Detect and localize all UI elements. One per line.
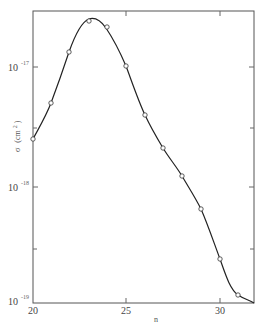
data-point	[143, 113, 147, 117]
data-point	[124, 64, 128, 68]
x-ticks	[126, 11, 220, 303]
data-point	[87, 19, 91, 23]
x-tick-label-30: 30	[215, 305, 225, 316]
x-tick-label-20: 20	[28, 305, 38, 316]
data-point	[199, 207, 203, 211]
data-point	[67, 50, 71, 54]
data-point	[31, 137, 35, 141]
y-tick-exp-1e-17: -17	[21, 60, 29, 66]
data-point	[236, 293, 240, 297]
data-point	[180, 174, 184, 178]
data-point	[218, 257, 222, 261]
x-axis-label: n	[154, 315, 158, 324]
y-tick-label-1e-18: 10	[8, 182, 18, 193]
data-markers	[31, 19, 240, 297]
y-ticks-right	[249, 67, 254, 249]
data-point	[161, 146, 165, 150]
y-axis-label: σ (cm 2 )	[10, 120, 22, 152]
y-tick-exp-1e-19: -19	[21, 294, 29, 300]
svg-text:σ (cm 2 ): σ (cm 2 )	[10, 120, 22, 152]
data-point	[105, 25, 109, 29]
y-tick-exp-1e-18: -18	[21, 180, 29, 186]
y-tick-label-1e-17: 10	[8, 62, 18, 73]
y-ticks-left	[33, 67, 38, 249]
chart: 10 -17 10 -18 10 -19 20 25 30 n σ (cm 2 …	[0, 0, 265, 326]
y-tick-label-1e-19: 10	[8, 296, 18, 307]
data-point	[49, 101, 53, 105]
x-tick-label-25: 25	[121, 305, 131, 316]
